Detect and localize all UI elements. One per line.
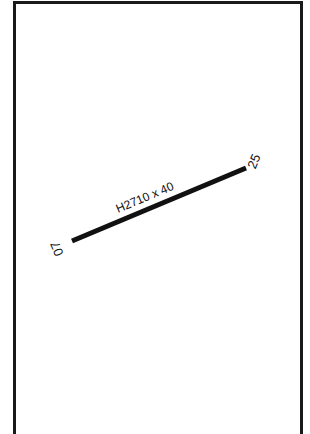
runway-strip [72, 168, 246, 241]
runway-end-25-label: 25 [244, 152, 263, 171]
runway-end-07-label: 07 [47, 239, 66, 258]
